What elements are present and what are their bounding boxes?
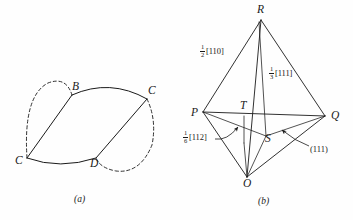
leader-plane-111 (282, 130, 309, 146)
leader-sixth-112 (215, 127, 238, 139)
edge-R-P (203, 20, 261, 112)
figure-root: C B C D (a) (0, 0, 353, 220)
miller-index-111: [111] (275, 69, 292, 78)
fraction-one-sixth: 1 6 (183, 130, 188, 145)
fraction-one-half: 1 2 (200, 44, 205, 59)
panel-b-label-O: O (243, 178, 251, 190)
panel-b-drawing (0, 0, 353, 220)
line-Q-S (266, 116, 325, 136)
line-S-R (259, 22, 266, 136)
edge-R-O (247, 20, 261, 177)
annotation-plane-111: (111) (310, 145, 328, 154)
miller-index-110: [110] (206, 47, 224, 56)
edge-P-O (203, 112, 247, 177)
annotation-sixth-112: 1 6 [112] (183, 130, 207, 145)
panel-b-label-T: T (240, 100, 246, 112)
panel-b-label-R: R (257, 4, 264, 16)
line-P-S (203, 112, 266, 136)
edge-P-Q (203, 112, 325, 116)
panel-b-label-S: S (265, 133, 271, 145)
line-Tfoot-O (244, 143, 247, 177)
panel-b-label-Q: Q (331, 110, 339, 122)
fraction-one-third: 1 3 (269, 66, 274, 81)
miller-index-112: [112] (189, 133, 207, 142)
annotation-half-110: 1 2 [110] (200, 44, 224, 59)
panel-b-caption: (b) (258, 196, 269, 206)
annotation-third-111: 1 3 [111] (269, 66, 292, 81)
panel-b-label-P: P (191, 107, 198, 119)
